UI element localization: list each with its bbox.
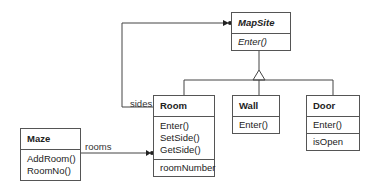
operation: Enter() <box>160 120 208 132</box>
operation: Enter() <box>233 116 279 133</box>
attribute: roomNumber <box>154 159 214 176</box>
operation: GetSide() <box>160 144 208 156</box>
class-name: Maze <box>21 129 80 149</box>
class-room[interactable]: Room Enter() SetSide() GetSide() roomNum… <box>153 95 215 177</box>
operation: Enter() <box>232 33 290 50</box>
sides-label: sides <box>130 98 152 109</box>
operation: RoomNo() <box>27 165 74 177</box>
operation: Enter() <box>307 116 359 133</box>
class-name: MapSite <box>232 13 290 33</box>
operation: AddRoom() <box>27 153 74 165</box>
class-maze[interactable]: Maze AddRoom() RoomNo() <box>20 128 81 181</box>
operation: SetSide() <box>160 132 208 144</box>
attribute: isOpen <box>307 133 359 150</box>
class-name: Room <box>154 96 214 116</box>
class-wall[interactable]: Wall Enter() <box>232 95 280 134</box>
class-door[interactable]: Door Enter() isOpen <box>306 95 360 151</box>
rooms-label: rooms <box>85 141 111 152</box>
class-mapsite[interactable]: MapSite Enter() <box>231 12 291 51</box>
inheritance-triangle-icon <box>253 70 265 80</box>
class-name: Wall <box>233 96 279 116</box>
class-name: Door <box>307 96 359 116</box>
